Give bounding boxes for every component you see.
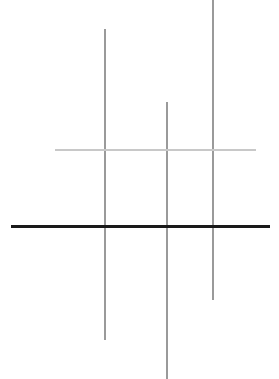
line-vertical-1 <box>104 29 106 340</box>
figure-canvas <box>0 0 279 379</box>
line-vertical-2 <box>166 102 168 379</box>
line-horizontal-dark <box>11 225 270 228</box>
line-horizontal-light <box>55 149 256 151</box>
